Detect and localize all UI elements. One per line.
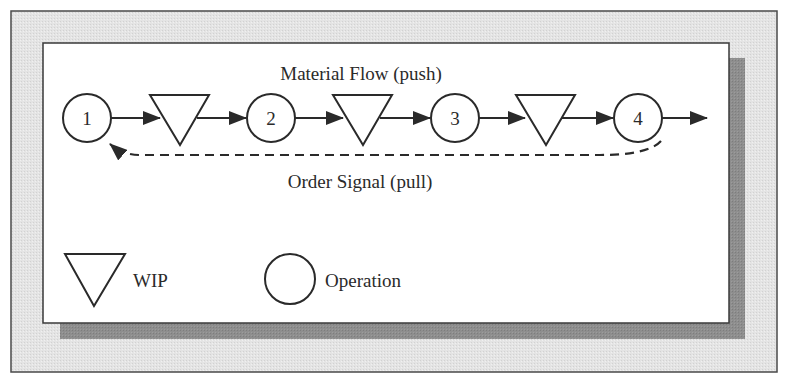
- operation-node-4: 4: [614, 94, 662, 142]
- operation-node-3: 3: [431, 94, 479, 142]
- legend-operation-label: Operation: [325, 270, 401, 291]
- operation-node-2: 2: [247, 94, 295, 142]
- operation-label: 4: [633, 108, 643, 129]
- material-flow-title: Material Flow (push): [280, 63, 441, 85]
- order-signal-title: Order Signal (pull): [288, 171, 433, 193]
- operation-label: 2: [266, 108, 276, 129]
- operation-label: 1: [82, 108, 92, 129]
- operation-label: 3: [450, 108, 460, 129]
- diagram-canvas: Material Flow (push) 1 2 3 4 Order Signa…: [0, 0, 785, 383]
- legend-wip-label: WIP: [133, 270, 168, 291]
- legend-operation-circle-icon: [265, 254, 315, 304]
- operation-node-1: 1: [63, 94, 111, 142]
